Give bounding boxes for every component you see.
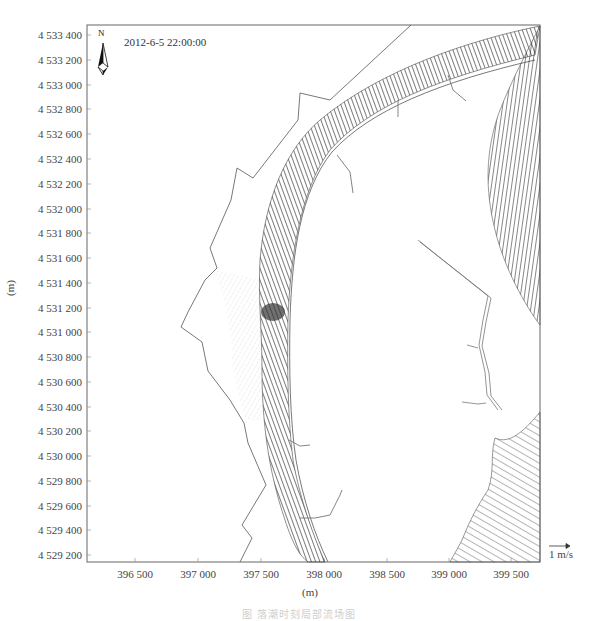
timestamp-label: 2012-6-5 22:00:00	[124, 36, 206, 48]
plot-frame	[87, 25, 540, 562]
y-tick-label: 4 530 200	[0, 425, 82, 437]
x-tick-label: 399 500	[476, 568, 546, 580]
x-tick-label: 396 500	[100, 568, 170, 580]
map-plot	[0, 0, 598, 621]
y-tick-label: 4 530 600	[0, 376, 82, 388]
y-tick-label: 4 529 600	[0, 500, 82, 512]
x-axis-label: (m)	[302, 586, 318, 598]
y-tick-label: 4 530 000	[0, 450, 82, 462]
y-tick-label: 4 530 800	[0, 351, 82, 363]
y-tick-label: 4 533 000	[0, 79, 82, 91]
y-tick-label: 4 529 200	[0, 549, 82, 561]
y-axis-ticks	[87, 35, 91, 555]
y-tick-label: 4 532 200	[0, 178, 82, 190]
figure-caption: 图 落潮时刻局部流场图	[0, 606, 598, 621]
y-tick-label: 4 531 600	[0, 252, 82, 264]
y-tick-label: 4 532 800	[0, 103, 82, 115]
flow-field-figure: N 2012-6-5 22:00:00 4 533 400 4 533 200 …	[0, 0, 598, 621]
north-arrow-icon	[98, 43, 108, 75]
y-tick-label: 4 532 000	[0, 203, 82, 215]
y-tick-label: 4 530 400	[0, 401, 82, 413]
x-tick-label: 398 500	[352, 568, 422, 580]
tributary-creek	[418, 240, 502, 410]
southeast-estuary-flow	[450, 412, 540, 562]
y-tick-label: 4 531 000	[0, 326, 82, 338]
y-tick-label: 4 531 200	[0, 302, 82, 314]
y-tick-label: 4 529 800	[0, 475, 82, 487]
shallow-area	[215, 270, 262, 420]
y-tick-label: 4 532 400	[0, 153, 82, 165]
y-tick-label: 4 532 600	[0, 128, 82, 140]
y-tick-label: 4 529 400	[0, 524, 82, 536]
y-tick-label: 4 533 200	[0, 54, 82, 66]
x-tick-label: 398 000	[289, 568, 359, 580]
eastern-water-body-flow	[488, 26, 540, 325]
y-tick-label: 4 531 800	[0, 227, 82, 239]
x-tick-label: 397 000	[163, 568, 233, 580]
x-tick-label: 397 500	[226, 568, 296, 580]
vector-scale-label: 1 m/s	[549, 548, 573, 560]
x-tick-label: 399 000	[414, 568, 484, 580]
north-label: N	[98, 28, 105, 38]
y-axis-label: (m)	[4, 280, 16, 296]
y-tick-label: 4 533 400	[0, 29, 82, 41]
constriction-zone	[261, 303, 285, 321]
